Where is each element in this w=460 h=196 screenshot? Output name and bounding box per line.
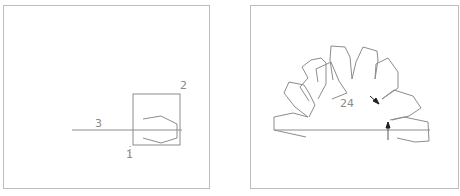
diagram-canvas: 2 3 1 24 [0, 0, 460, 196]
dimension-arrows [370, 96, 390, 140]
label-1: 1 [126, 148, 133, 161]
left-drawing [72, 94, 182, 156]
selection-box [133, 94, 180, 145]
label-3: 3 [95, 117, 102, 130]
count-label: 24 [340, 97, 354, 110]
right-drawing [274, 46, 430, 142]
label-2: 2 [180, 79, 187, 92]
tooth-1 [274, 113, 308, 137]
arrowhead-lower [386, 122, 390, 128]
